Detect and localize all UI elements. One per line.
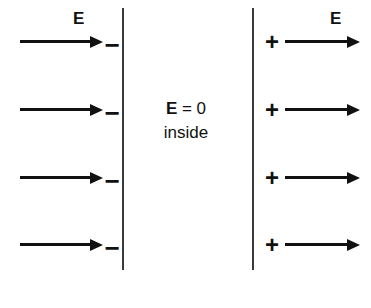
right-field-arrow bbox=[285, 36, 360, 48]
right-positive-charge: + bbox=[264, 233, 280, 257]
right-positive-charge: + bbox=[264, 98, 280, 122]
left-field-arrow bbox=[20, 36, 103, 48]
arrow-shaft bbox=[285, 176, 348, 179]
right-field-arrow bbox=[285, 104, 360, 116]
left-negative-charge: − bbox=[104, 235, 120, 261]
arrow-shaft bbox=[20, 40, 91, 43]
left-field-arrow bbox=[20, 172, 103, 184]
field-diagram: E − − − − E = 0 inside E + + + bbox=[0, 0, 371, 308]
interior-inside-label: inside bbox=[152, 122, 220, 144]
left-negative-charge: − bbox=[104, 100, 120, 126]
right-field-arrow bbox=[285, 239, 360, 251]
right-conductor-surface bbox=[252, 8, 254, 270]
arrow-head-icon bbox=[90, 104, 103, 116]
arrow-head-icon bbox=[347, 239, 360, 251]
arrow-head-icon bbox=[90, 36, 103, 48]
arrow-shaft bbox=[285, 243, 348, 246]
arrow-shaft bbox=[20, 243, 91, 246]
arrow-shaft bbox=[20, 176, 91, 179]
arrow-head-icon bbox=[90, 239, 103, 251]
equals-zero: = 0 bbox=[177, 99, 206, 118]
arrow-head-icon bbox=[347, 104, 360, 116]
left-conductor-surface bbox=[122, 8, 124, 270]
arrow-head-icon bbox=[347, 172, 360, 184]
left-field-label: E bbox=[73, 10, 84, 27]
right-positive-charge: + bbox=[264, 30, 280, 54]
right-field-label: E bbox=[330, 10, 341, 27]
interior-field-equation: E = 0 bbox=[152, 98, 220, 120]
right-positive-charge: + bbox=[264, 166, 280, 190]
right-field-arrow bbox=[285, 172, 360, 184]
interior-field-note: E = 0 inside bbox=[152, 98, 220, 144]
arrow-shaft bbox=[285, 108, 348, 111]
field-symbol: E bbox=[166, 99, 177, 118]
left-field-arrow bbox=[20, 104, 103, 116]
arrow-shaft bbox=[285, 40, 348, 43]
arrow-shaft bbox=[20, 108, 91, 111]
left-negative-charge: − bbox=[104, 168, 120, 194]
left-field-arrow bbox=[20, 239, 103, 251]
arrow-head-icon bbox=[347, 36, 360, 48]
arrow-head-icon bbox=[90, 172, 103, 184]
left-negative-charge: − bbox=[104, 32, 120, 58]
